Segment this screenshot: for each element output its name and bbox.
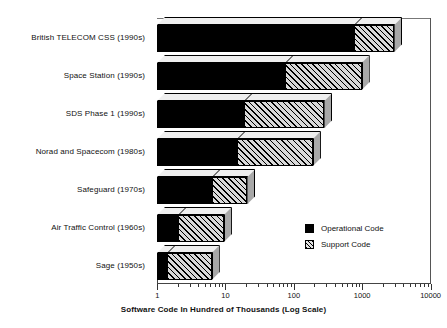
- x-tick-minor: [205, 284, 206, 287]
- x-tick-minor: [283, 284, 284, 287]
- legend-swatch-hatched-icon: [305, 240, 314, 249]
- x-tick-minor: [314, 284, 315, 287]
- bar-segment-operational: [157, 101, 244, 128]
- x-tick-minor: [219, 284, 220, 287]
- x-tick-minor: [347, 284, 348, 287]
- x-tick-minor: [356, 284, 357, 287]
- x-tick-major: [157, 284, 158, 290]
- x-tick-minor: [178, 284, 179, 287]
- x-tick-label: 10: [221, 291, 229, 300]
- x-tick-minor: [190, 284, 191, 287]
- bar-top-face: [157, 169, 255, 177]
- x-tick-label: 100: [288, 291, 301, 300]
- category-label-air-traffic-control: Air Traffic Control (1960s): [51, 223, 145, 233]
- legend-label-operational-code: Operational Code: [321, 224, 384, 233]
- x-tick-minor: [210, 284, 211, 287]
- x-tick-minor: [215, 284, 216, 287]
- x-axis-title: Software Code In Hundred of Thousands (L…: [0, 305, 447, 314]
- bar-segment-support: [244, 101, 324, 128]
- x-tick-minor: [291, 284, 292, 287]
- x-tick-minor: [287, 284, 288, 287]
- bar-segment-operational: [157, 63, 285, 90]
- legend-swatch-solid-icon: [305, 224, 314, 233]
- category-label-space-station: Space Station (1990s): [64, 71, 145, 81]
- plot-frame-right: [430, 18, 431, 283]
- legend: Operational Code Support Code: [305, 224, 384, 256]
- bar-chart: British TELECOM CSS (1990s) Space Statio…: [0, 0, 447, 328]
- x-tick-minor: [335, 284, 336, 287]
- x-tick-label: 1000: [354, 291, 371, 300]
- category-label-norad-and-spacecom: Norad and Spacecom (1980s): [36, 147, 145, 157]
- x-tick-major: [294, 284, 295, 290]
- x-tick-minor: [410, 284, 411, 287]
- bar-segment-support: [167, 253, 212, 280]
- bar-segment-operational: [157, 25, 354, 52]
- x-tick-minor: [222, 284, 223, 287]
- bar-segment-operational: [157, 139, 237, 166]
- legend-item-support-code: Support Code: [305, 240, 384, 249]
- x-tick-minor: [420, 284, 421, 287]
- x-tick-minor: [403, 284, 404, 287]
- x-tick-minor: [246, 284, 247, 287]
- bar-segment-support: [285, 63, 362, 90]
- bar-segment-operational: [157, 253, 167, 280]
- x-tick-minor: [267, 284, 268, 287]
- category-label-british-telecom-css: British TELECOM CSS (1990s): [31, 33, 145, 43]
- x-tick-minor: [395, 284, 396, 287]
- x-tick-minor: [326, 284, 327, 287]
- x-tick-minor: [383, 284, 384, 287]
- x-tick-minor: [279, 284, 280, 287]
- bar-top-face: [157, 55, 370, 63]
- x-tick-minor: [342, 284, 343, 287]
- bar-segment-support: [212, 177, 248, 204]
- x-tick-label: 1: [155, 291, 159, 300]
- legend-label-support-code: Support Code: [321, 240, 370, 249]
- x-tick-minor: [273, 284, 274, 287]
- bar-segment-operational: [157, 215, 178, 242]
- bar-segment-support: [178, 215, 224, 242]
- x-tick-minor: [428, 284, 429, 287]
- legend-item-operational-code: Operational Code: [305, 224, 384, 233]
- x-tick-minor: [198, 284, 199, 287]
- category-label-safeguard: Safeguard (1970s): [77, 185, 145, 195]
- x-tick-label: 10000: [420, 291, 441, 300]
- x-tick-major: [225, 284, 226, 290]
- category-label-sds-phase-1: SDS Phase 1 (1990s): [66, 109, 145, 119]
- x-tick-minor: [415, 284, 416, 287]
- x-tick-major: [362, 284, 363, 290]
- category-label-sage: Sage (1950s): [96, 261, 145, 271]
- x-tick-minor: [258, 284, 259, 287]
- x-tick-minor: [352, 284, 353, 287]
- x-tick-minor: [424, 284, 425, 287]
- bar-segment-operational: [157, 177, 212, 204]
- bar-segment-support: [354, 25, 394, 52]
- bar-segment-support: [237, 139, 312, 166]
- x-tick-minor: [359, 284, 360, 287]
- bar-top-face: [157, 207, 232, 215]
- x-tick-major: [431, 284, 432, 290]
